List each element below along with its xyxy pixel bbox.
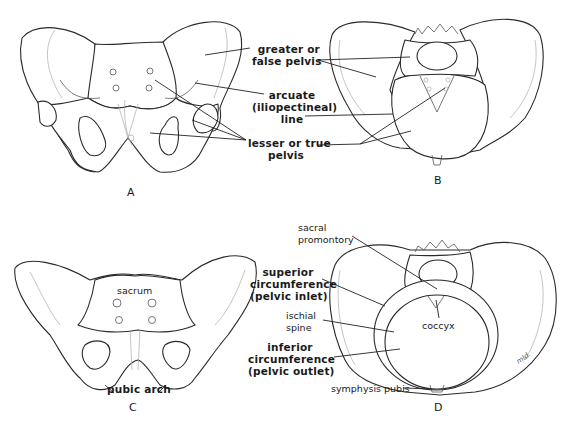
coccyx-label: coccyx — [422, 320, 455, 332]
panel-b-letter: B — [434, 174, 442, 187]
superior-label-line2: circumference — [250, 278, 326, 290]
pubic-arch-label: pubic arch — [107, 383, 171, 395]
arcuate-label-line1: arcuate — [252, 89, 332, 101]
sacrum-label: sacrum — [117, 285, 152, 297]
ischial-label-line2: spine — [286, 322, 316, 334]
symphysis-pubis-label: symphysis pubis — [331, 383, 410, 395]
inferior-label-line1: inferior — [248, 341, 332, 353]
lesser-pelvis-label-line2: pelvis — [248, 149, 324, 161]
panel-d-letter: D — [434, 401, 442, 414]
superior-label-line1: superior — [250, 266, 326, 278]
inferior-label-line2: circumference — [248, 353, 332, 365]
lesser-pelvis-label: lesser or true pelvis — [248, 137, 324, 161]
panel-a-pelvis-drawing — [21, 22, 242, 172]
inferior-label-line3: (pelvic outlet) — [248, 365, 332, 377]
arcuate-label-line2: (iliopectineal) — [252, 101, 332, 113]
panel-a-letter: A — [127, 186, 135, 199]
arcuate-label-line3: line — [252, 113, 332, 125]
panel-d-pelvis-drawing — [330, 240, 556, 395]
sacral-promontory-label: sacral promontory — [298, 222, 354, 246]
inferior-circumference-label: inferior circumference (pelvic outlet) — [248, 341, 332, 377]
ischial-label-line1: ischial — [286, 310, 316, 322]
superior-label-line3: (pelvic inlet) — [250, 290, 326, 302]
greater-pelvis-label: greater or false pelvis — [252, 43, 320, 67]
panel-c-letter: C — [129, 401, 137, 414]
panel-c-pelvis-drawing — [15, 256, 257, 390]
greater-pelvis-label-line1: greater or — [252, 43, 320, 55]
sacral-label-line1: sacral — [298, 222, 354, 234]
greater-pelvis-label-line2: false pelvis — [252, 55, 320, 67]
superior-circumference-label: superior circumference (pelvic inlet) — [250, 266, 326, 302]
lesser-pelvis-label-line1: lesser or true — [248, 137, 324, 149]
ischial-spine-label: ischial spine — [286, 310, 316, 334]
sacral-label-line2: promontory — [298, 234, 354, 246]
arcuate-line-label: arcuate (iliopectineal) line — [252, 89, 332, 125]
